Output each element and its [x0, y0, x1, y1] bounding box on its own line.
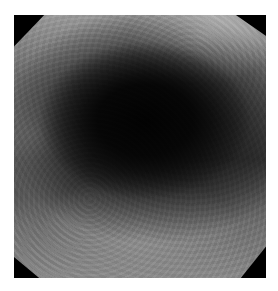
endoscopic-image: [14, 15, 266, 278]
tissue-texture: [14, 15, 266, 278]
